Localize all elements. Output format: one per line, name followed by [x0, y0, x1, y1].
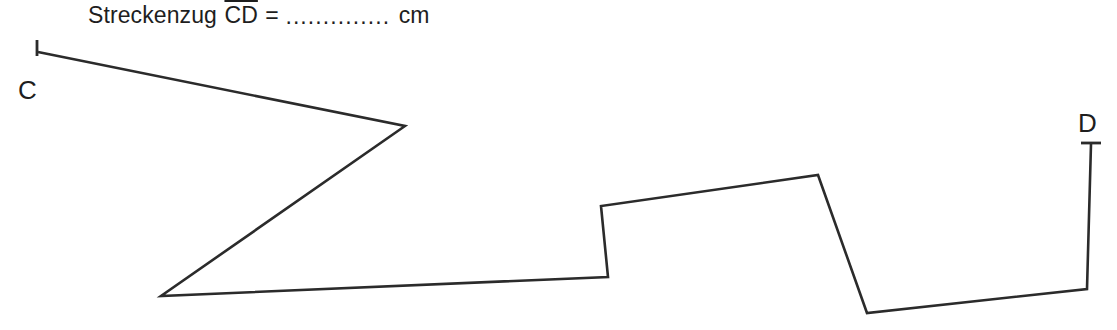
worksheet-canvas: Streckenzug CD = .............. cm C D: [0, 0, 1117, 330]
point-label-c: C: [18, 77, 37, 103]
point-label-d: D: [1078, 110, 1097, 136]
polyline-figure: [0, 0, 1117, 330]
broken-line-path: [38, 52, 1091, 313]
